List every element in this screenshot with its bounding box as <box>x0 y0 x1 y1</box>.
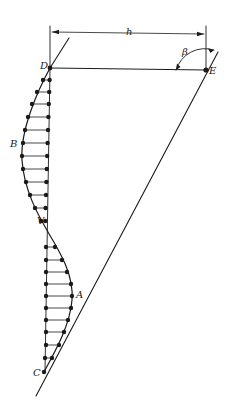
profile-dots <box>20 66 209 375</box>
arrow-left-icon <box>52 30 59 34</box>
label-h: h <box>126 27 132 37</box>
right-wall-line <box>36 52 218 396</box>
label-C: C <box>33 368 41 378</box>
profile-ordinates <box>22 80 72 358</box>
label-A: A <box>76 290 83 300</box>
line-D-E <box>50 68 206 70</box>
label-D: D <box>40 61 48 71</box>
label-beta: β <box>182 47 188 57</box>
label-V: V <box>37 216 44 226</box>
arrow-right-icon <box>197 32 204 36</box>
left-wall-line <box>50 38 69 68</box>
label-B: B <box>10 139 17 149</box>
label-E: E <box>209 66 216 76</box>
diagram-figure <box>0 0 227 408</box>
